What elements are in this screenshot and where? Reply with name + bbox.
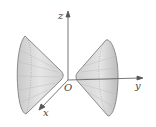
y-axis-label: y bbox=[134, 80, 141, 91]
left-cone-sheet bbox=[17, 36, 63, 114]
origin-label: O bbox=[64, 82, 72, 93]
double-cone-diagram: z y x O bbox=[0, 0, 156, 127]
x-axis-label: x bbox=[43, 107, 49, 118]
z-axis-arrow-icon bbox=[66, 11, 70, 17]
z-axis-label: z bbox=[57, 10, 64, 21]
right-cone-sheet bbox=[76, 40, 118, 116]
